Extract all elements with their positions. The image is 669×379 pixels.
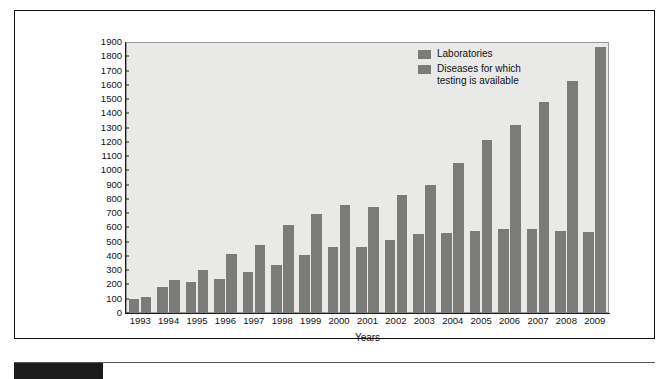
bar-diseases-2007	[539, 102, 550, 313]
bar-laboratories-2008	[555, 231, 566, 313]
bar-laboratories-1998	[271, 265, 282, 313]
x-axis-tick-label: 2009	[581, 316, 609, 326]
y-axis-tick-label: 1500	[101, 94, 122, 104]
y-axis-tick-mark	[125, 113, 129, 114]
bar-laboratories-2005	[470, 231, 481, 313]
bar-laboratories-2002	[385, 240, 396, 313]
x-axis-tick-label: 2006	[495, 316, 523, 326]
y-axis-tick-mark	[125, 127, 129, 128]
bar-laboratories-2000	[328, 247, 339, 313]
y-axis-tick-label: 800	[106, 194, 122, 204]
page-corner-tab	[14, 363, 103, 379]
x-axis-title: Years	[126, 332, 609, 343]
y-axis-tick-mark	[125, 241, 129, 242]
bar-diseases-1999	[311, 214, 322, 313]
bar-diseases-2004	[453, 163, 464, 313]
y-axis-tick-label: 1100	[102, 151, 122, 161]
x-axis-tick-label: 1993	[126, 316, 154, 326]
legend-swatch-icon	[418, 50, 431, 59]
y-axis-tick-labels: 1900180017001600150014001300120011001000…	[78, 0, 122, 379]
y-axis-tick-mark	[125, 56, 129, 57]
y-axis-tick-mark	[125, 298, 129, 299]
y-axis-tick-label: 0	[117, 308, 122, 318]
y-axis-tick-label: 500	[106, 237, 122, 247]
y-axis-tick-label: 1200	[101, 137, 122, 147]
bar-diseases-1995	[198, 270, 209, 313]
bar-laboratories-1997	[243, 272, 254, 313]
y-axis-tick-mark	[125, 255, 129, 256]
x-axis-tick-label: 1997	[240, 316, 268, 326]
bar-diseases-1998	[283, 225, 294, 313]
x-axis-tick-label: 2005	[467, 316, 495, 326]
legend-item-laboratories: Laboratories	[418, 48, 598, 60]
y-axis-tick-mark	[125, 141, 129, 142]
bar-diseases-1993	[141, 297, 152, 313]
bar-diseases-1996	[226, 254, 237, 313]
y-axis-tick-label: 400	[106, 251, 122, 261]
x-axis-tick-label: 2004	[439, 316, 467, 326]
y-axis-tick-label: 1700	[101, 66, 122, 76]
bar-laboratories-2003	[413, 234, 424, 313]
y-axis-tick-mark	[125, 270, 129, 271]
y-axis-tick-mark	[125, 284, 129, 285]
bar-diseases-2005	[482, 140, 493, 313]
y-axis-tick-label: 200	[106, 280, 122, 290]
y-axis-tick-mark	[125, 70, 129, 71]
bar-diseases-2008	[567, 81, 578, 313]
bar-diseases-1994	[169, 280, 180, 313]
y-axis-tick-mark	[125, 156, 129, 157]
bar-diseases-2003	[425, 185, 436, 313]
y-axis-tick-label: 1300	[101, 123, 122, 133]
y-axis-tick-label: 700	[106, 208, 122, 218]
x-axis-tick-label: 1999	[296, 316, 324, 326]
bar-laboratories-1993	[129, 299, 140, 313]
y-axis-tick-mark	[125, 84, 129, 85]
y-axis-tick-mark	[125, 170, 129, 171]
bar-laboratories-2009	[583, 232, 594, 313]
y-axis-tick-label: 600	[106, 223, 122, 233]
bar-diseases-1997	[255, 245, 266, 313]
page-root: 1900180017001600150014001300120011001000…	[0, 0, 669, 379]
x-axis-tick-label: 2000	[325, 316, 353, 326]
bar-diseases-2001	[368, 207, 379, 313]
bar-laboratories-2004	[441, 233, 452, 313]
bar-laboratories-2006	[498, 229, 509, 313]
bar-laboratories-1996	[214, 279, 225, 313]
x-axis-line	[125, 313, 610, 314]
legend-label-diseases-line1: Diseases for which	[437, 63, 521, 74]
x-axis-tick-label: 1996	[211, 316, 239, 326]
x-axis-tick-label: 1994	[154, 316, 182, 326]
x-axis-tick-labels: 1993199419951996199719981999200020012002…	[126, 316, 609, 330]
x-axis-tick-label: 2008	[552, 316, 580, 326]
y-axis-tick-mark	[125, 213, 129, 214]
bar-laboratories-2001	[356, 247, 367, 313]
legend-swatch-icon	[418, 65, 431, 74]
x-axis-tick-label: 1998	[268, 316, 296, 326]
x-axis-tick-label: 2007	[524, 316, 552, 326]
legend-label-diseases-line2: testing is available	[437, 75, 519, 86]
bar-laboratories-1995	[186, 282, 197, 313]
y-axis-tick-label: 1900	[101, 37, 122, 47]
y-axis-tick-mark	[125, 198, 129, 199]
legend-label-diseases: Diseases for whichtesting is available	[437, 63, 521, 87]
y-axis-tick-label: 1600	[101, 80, 122, 90]
x-axis-tick-label: 2002	[382, 316, 410, 326]
bar-diseases-2000	[340, 205, 351, 313]
x-axis-tick-label: 2001	[353, 316, 381, 326]
x-axis-tick-label: 2003	[410, 316, 438, 326]
y-axis-tick-mark	[125, 184, 129, 185]
bar-laboratories-2007	[527, 229, 538, 313]
y-axis-tick-mark	[125, 227, 129, 228]
y-axis-tick-mark	[125, 99, 129, 100]
legend-label-laboratories: Laboratories	[437, 48, 493, 60]
y-axis-tick-mark	[125, 313, 129, 314]
x-axis-tick-label: 1995	[183, 316, 211, 326]
y-axis-tick-label: 100	[106, 294, 122, 304]
y-axis-tick-label: 300	[106, 265, 122, 275]
bar-laboratories-1999	[299, 255, 310, 313]
y-axis-tick-label: 1800	[101, 52, 122, 62]
legend-item-diseases: Diseases for whichtesting is available	[418, 63, 598, 87]
chart-legend: Laboratories Diseases for whichtesting i…	[418, 48, 598, 90]
y-axis-tick-label: 900	[106, 180, 122, 190]
y-axis-tick-label: 1000	[101, 166, 122, 176]
